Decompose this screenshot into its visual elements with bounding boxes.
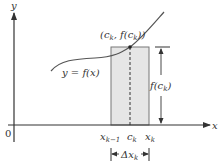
y-axis-label: y (10, 0, 17, 11)
tick-label-xk-1: xk−1 (100, 131, 120, 144)
origin-label: 0 (5, 128, 11, 139)
height-label: f(ck) (149, 80, 171, 93)
tick-label-ck: ck (127, 131, 137, 144)
tick-label-xk: xk (145, 131, 155, 144)
riemann-diagram: y 0 x y = f(x) (ck, f(ck)) f(ck) xk−1 ck… (0, 0, 220, 164)
width-label: Δxk (120, 149, 138, 162)
curve-label: y = f(x) (61, 67, 100, 78)
x-axis-label: x (212, 120, 218, 131)
ck-point (128, 45, 132, 49)
